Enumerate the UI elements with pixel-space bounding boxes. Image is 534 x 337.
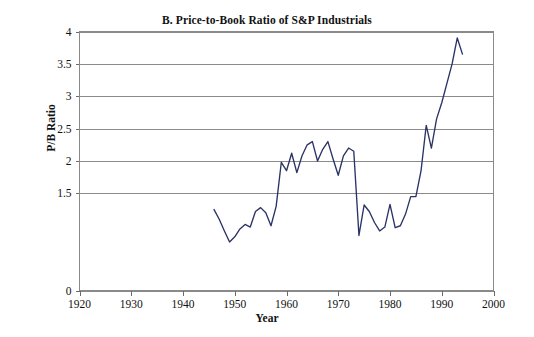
y-tick-label: 2 (38, 155, 72, 167)
x-tick-label: 1920 (58, 298, 102, 310)
x-tick-label: 1990 (420, 298, 464, 310)
axis-tickmarks (76, 33, 495, 296)
y-tick-label: 2.5 (38, 123, 72, 135)
x-tick-label: 1930 (109, 298, 153, 310)
x-tick-label: 2000 (472, 298, 516, 310)
y-tick-label: 3.5 (38, 58, 72, 70)
data-series (214, 38, 462, 242)
x-tick-label: 1980 (368, 298, 412, 310)
y-tick-label: 3 (38, 90, 72, 102)
chart-figure: B. Price-to-Book Ratio of S&P Industrial… (0, 0, 534, 337)
y-tick-label: 4 (38, 26, 72, 38)
y-tick-label: 0 (38, 285, 72, 297)
gridlines (80, 33, 494, 292)
x-tick-label: 1970 (316, 298, 360, 310)
series-line (214, 38, 462, 242)
x-tick-label: 1940 (161, 298, 205, 310)
x-tick-label: 1960 (265, 298, 309, 310)
x-tick-label: 1950 (213, 298, 257, 310)
plot-area (0, 0, 534, 337)
y-tick-label: 1.5 (38, 187, 72, 199)
